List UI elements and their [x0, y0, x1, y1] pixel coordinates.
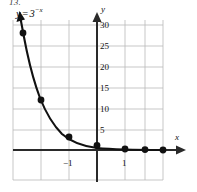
data-point — [122, 146, 129, 153]
data-point — [66, 134, 73, 141]
data-point — [160, 147, 167, 154]
data-points — [20, 30, 167, 154]
grid-horizontal — [13, 25, 163, 180]
y-tick-label: 30 — [100, 20, 110, 30]
data-point — [38, 97, 45, 104]
curve-exponential — [17, 11, 164, 150]
y-tick-labels: 30 25 20 15 10 5 — [100, 20, 110, 135]
exponential-function-figure: 13. y=3−x — [0, 0, 197, 192]
y-tick-label: 10 — [100, 104, 110, 114]
data-point — [142, 146, 149, 153]
x-axis-label: x — [174, 132, 179, 142]
graph-canvas: 30 25 20 15 10 5 −1 1 y x — [0, 0, 197, 192]
y-tick-label: 20 — [100, 62, 110, 72]
x-tick-label: −1 — [63, 158, 73, 168]
grid-vertical — [13, 20, 163, 180]
x-tick-labels: −1 1 — [63, 158, 127, 168]
y-tick-label: 5 — [100, 125, 105, 135]
y-tick-label: 15 — [100, 83, 110, 93]
data-point — [94, 142, 101, 149]
data-point — [20, 30, 27, 37]
y-axis-label: y — [100, 4, 105, 14]
x-tick-label: 1 — [122, 158, 127, 168]
y-tick-label: 25 — [100, 41, 110, 51]
y-axis — [93, 12, 102, 182]
